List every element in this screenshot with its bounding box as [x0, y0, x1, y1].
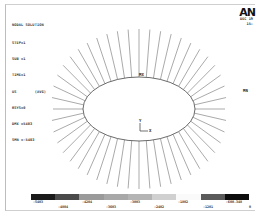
vector-arrow: [146, 30, 150, 78]
vector-arrow: [52, 98, 84, 105]
vector-arrow: [153, 31, 160, 78]
vector-arrow: [107, 139, 118, 184]
legend-value: -1802: [178, 200, 188, 204]
legend-labels-bottom: -4804-3603-2402-12010: [0, 205, 257, 210]
vector-arrow: [160, 139, 171, 184]
vector-arrow: [57, 75, 87, 97]
legend-value: -4804: [58, 205, 68, 209]
legend-value: -4204: [82, 200, 92, 204]
elliptical-boundary: [83, 77, 195, 141]
vector-arrow: [187, 65, 214, 93]
vector-arrow: [54, 117, 85, 132]
vector-arrow: [173, 134, 191, 175]
vector-arrow: [187, 125, 214, 153]
vector-arrow: [167, 137, 181, 180]
vector-arrow: [54, 86, 85, 101]
vector-plot[interactable]: MX MN Y X: [0, 0, 257, 216]
legend-value: 0: [249, 205, 251, 209]
legend-value: -2402: [154, 205, 164, 209]
vector-arrow: [78, 49, 99, 86]
vector-arrow: [153, 140, 160, 187]
legend-value: -5403: [33, 200, 43, 204]
vector-arrow: [191, 75, 221, 97]
vector-arrow: [191, 121, 221, 143]
vector-arrow: [87, 43, 105, 84]
legend-value: -600.348: [226, 200, 242, 204]
vector-arrow: [63, 65, 90, 93]
vector-arrow: [160, 34, 171, 79]
vector-arrow: [107, 34, 118, 79]
vector-arrow: [193, 86, 224, 101]
vector-arrow: [193, 117, 224, 132]
vector-arrow: [128, 141, 132, 189]
vector-arrow: [87, 134, 105, 175]
legend-value: -1201: [203, 205, 213, 209]
vector-arrow: [179, 49, 200, 86]
vector-arrow: [57, 121, 87, 143]
vector-arrow: [195, 113, 227, 120]
vector-arrow: [117, 140, 124, 187]
vector-arrow: [167, 38, 181, 81]
vector-arrow: [78, 132, 99, 169]
vector-arrow: [128, 30, 132, 78]
vector-arrow: [97, 38, 111, 81]
legend-value: -3003: [130, 200, 140, 204]
vector-arrow: [117, 31, 124, 78]
vector-arrow: [146, 141, 150, 189]
vector-arrow: [97, 137, 111, 180]
max-marker: MX: [139, 72, 144, 77]
min-marker: MN: [243, 88, 248, 93]
vector-arrow: [195, 98, 227, 105]
vector-arrow: [173, 43, 191, 84]
vector-arrow: [52, 113, 84, 120]
vector-arrow: [63, 125, 90, 153]
legend-value: -3603: [106, 205, 116, 209]
vector-arrow: [179, 132, 200, 169]
